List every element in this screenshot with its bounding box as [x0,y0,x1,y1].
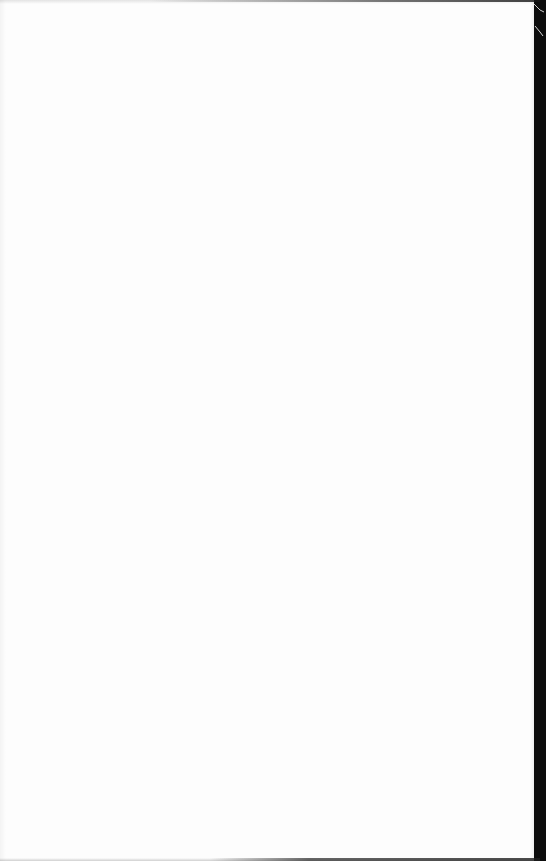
blank-paper-page [0,0,534,861]
scan-background [0,0,546,861]
paper-corner-fiber-icon [532,0,546,40]
top-edge-shadow [150,0,540,2]
